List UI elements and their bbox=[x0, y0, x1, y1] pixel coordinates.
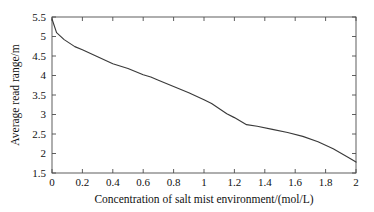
data-series-line-0 bbox=[52, 19, 356, 162]
x-tick-label-1: 0.2 bbox=[76, 176, 90, 188]
y-tick-label-0: 1.5 bbox=[32, 167, 46, 179]
y-tick-label-7: 5 bbox=[41, 30, 47, 42]
y-axis-tick-labels: 1.522.533.544.555.5 bbox=[32, 11, 46, 179]
x-tick-label-6: 1.2 bbox=[228, 176, 242, 188]
y-axis-tick-marks bbox=[52, 17, 356, 173]
plot-frame bbox=[52, 17, 356, 173]
y-tick-label-1: 2 bbox=[41, 147, 47, 159]
x-axis-tick-marks bbox=[52, 17, 356, 173]
x-tick-label-4: 0.8 bbox=[167, 176, 181, 188]
line-chart: 00.20.40.60.811.21.41.61.82 1.522.533.54… bbox=[0, 0, 374, 212]
y-tick-label-4: 3.5 bbox=[32, 89, 46, 101]
x-tick-label-2: 0.4 bbox=[106, 176, 120, 188]
x-tick-label-10: 2 bbox=[353, 176, 359, 188]
x-tick-label-5: 1 bbox=[201, 176, 207, 188]
x-tick-label-3: 0.6 bbox=[136, 176, 150, 188]
x-tick-label-8: 1.6 bbox=[288, 176, 302, 188]
y-axis-title: Average read range/m bbox=[9, 44, 22, 145]
x-axis-tick-labels: 00.20.40.60.811.21.41.61.82 bbox=[49, 176, 359, 188]
y-tick-label-6: 4.5 bbox=[32, 50, 46, 62]
y-tick-label-2: 2.5 bbox=[32, 128, 46, 140]
y-tick-label-5: 4 bbox=[41, 69, 47, 81]
x-tick-label-9: 1.8 bbox=[319, 176, 333, 188]
data-series-group bbox=[52, 19, 356, 162]
plot-area-border bbox=[52, 17, 356, 173]
x-tick-label-0: 0 bbox=[49, 176, 55, 188]
x-axis-title: Concentration of salt mist environment/(… bbox=[94, 193, 313, 206]
y-tick-label-8: 5.5 bbox=[32, 11, 46, 23]
y-tick-label-3: 3 bbox=[41, 108, 47, 120]
x-tick-label-7: 1.4 bbox=[258, 176, 272, 188]
chart-page: 00.20.40.60.811.21.41.61.82 1.522.533.54… bbox=[0, 0, 374, 212]
